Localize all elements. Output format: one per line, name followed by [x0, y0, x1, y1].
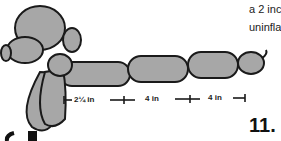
- balloon-nose-tip: [1, 45, 11, 61]
- balloon-ear: [63, 28, 81, 52]
- dimension-label-1: 2¼ in: [74, 95, 94, 104]
- next-step-partial-glyph: [7, 133, 14, 141]
- balloon-nozzle: [262, 50, 267, 58]
- balloon-segment-body-3: [188, 52, 238, 78]
- balloon-segment-body-2: [128, 56, 188, 82]
- balloon-snout: [7, 37, 43, 63]
- balloon-dog-illustration: [0, 0, 281, 141]
- dimension-label-3: 4 in: [208, 93, 222, 102]
- balloon-neck: [48, 54, 72, 76]
- balloon-leg-front: [40, 69, 66, 126]
- step-number: 11.: [249, 114, 276, 137]
- dimension-label-2: 4 in: [145, 94, 159, 103]
- next-step-partial-glyph-2: [28, 131, 37, 141]
- balloon-segment-tail: [238, 52, 264, 74]
